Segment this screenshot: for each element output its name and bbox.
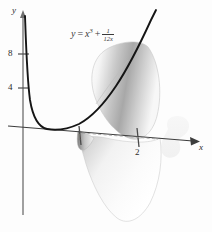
y-tick-label-8: 8 <box>8 49 13 58</box>
equation-equals: = <box>75 28 85 39</box>
fraction-numerator: 1 <box>102 27 113 35</box>
solid-of-revolution-figure: y x 8 4 1 2 y=x3+112x <box>0 0 212 232</box>
equation-plus: + <box>93 28 103 39</box>
background-smudge <box>161 116 189 158</box>
upper-lobe-surface <box>92 42 160 139</box>
solid-upper-lobe <box>92 42 160 139</box>
equation-fraction: 112x <box>102 27 113 43</box>
equation-annotation: y=x3+112x <box>71 27 114 43</box>
y-axis-label: y <box>12 6 16 15</box>
x-tick-label-2: 2 <box>135 148 140 157</box>
lower-lobe-surface <box>80 137 161 222</box>
x-tick-label-1: 1 <box>77 133 82 142</box>
fraction-denominator: 12x <box>102 35 113 42</box>
x-axis-label: x <box>199 143 203 152</box>
smudge-shape <box>161 116 189 158</box>
y-axis <box>18 10 29 215</box>
y-tick-label-4: 4 <box>8 83 13 92</box>
solid-lower-lobe <box>80 137 161 222</box>
